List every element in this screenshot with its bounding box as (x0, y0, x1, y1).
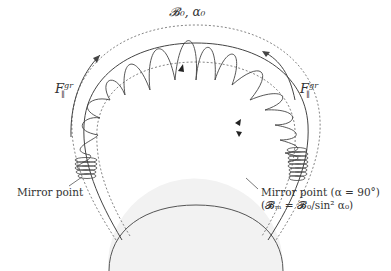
particle-trajectory (78, 41, 298, 170)
mirror-point-label-right: Mirror point (α = 90°) (261, 186, 380, 199)
mirror-field-formula: (𝓑ₘ = 𝓑₀/sin² α₀) (261, 199, 353, 212)
mirror-leader-left (69, 177, 82, 186)
force-arrow-right-head (262, 51, 270, 57)
mirror-point-label-left: Mirror point (17, 186, 83, 199)
force-arrow-left (71, 55, 100, 137)
force-superscript: gr (64, 81, 73, 90)
direction-arrow-right-2 (236, 131, 242, 137)
coils-right (287, 148, 308, 181)
force-subscript: ∥ (61, 90, 65, 99)
gravity-force-label-right: Fgr∥ (300, 79, 310, 101)
force-superscript: gr (309, 81, 318, 90)
force-subscript: ∥ (306, 90, 310, 99)
magnetic-mirror-diagram (0, 0, 391, 271)
planet (108, 179, 283, 271)
direction-arrow-right-1 (235, 119, 241, 126)
gravity-force-label-left: Fgr∥ (55, 79, 65, 101)
field-strength-label: 𝓑₀, α₀ (169, 6, 205, 19)
direction-arrow-top (178, 64, 184, 72)
mirror-leader-right (246, 178, 258, 189)
